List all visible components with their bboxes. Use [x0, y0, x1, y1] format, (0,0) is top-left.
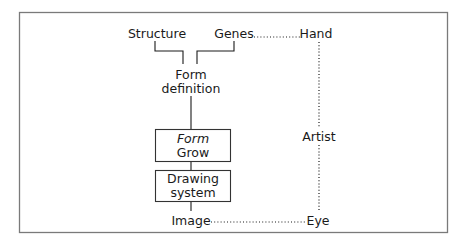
- node-form-grow-line1: Form: [177, 131, 209, 146]
- node-hand: Hand: [300, 26, 333, 41]
- connector-genes-to-form-definition: [197, 41, 234, 64]
- node-form-definition-line1: Form: [175, 67, 207, 82]
- node-eye: Eye: [307, 213, 330, 228]
- node-image: Image: [171, 213, 210, 228]
- node-form-definition-line2: definition: [162, 81, 221, 96]
- node-structure: Structure: [128, 26, 186, 41]
- node-form-grow-line2: Grow: [177, 145, 209, 160]
- diagram-canvas: Structure Genes Hand Form definition For…: [0, 0, 465, 244]
- node-genes: Genes: [214, 26, 254, 41]
- node-drawing-system-line2: system: [170, 185, 215, 200]
- node-drawing-system-line1: Drawing: [167, 171, 219, 186]
- connector-structure-to-form-definition: [155, 41, 183, 64]
- node-artist: Artist: [302, 129, 336, 144]
